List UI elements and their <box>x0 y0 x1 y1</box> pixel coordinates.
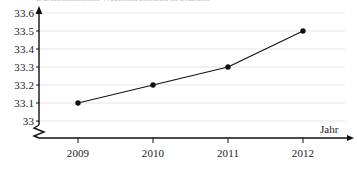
x-tick-label-2011: 2011 <box>198 148 258 159</box>
y-tick-label-33-1: 33.1 <box>0 98 34 109</box>
data-point-2009 <box>75 100 80 105</box>
gridlines <box>39 13 345 121</box>
x-tick-label-2010: 2010 <box>123 148 183 159</box>
line-chart-graphic <box>0 0 357 170</box>
chart-container: Durchschnittliche Wochenarbeitszeit in S… <box>0 0 357 170</box>
y-axis-break-icon <box>34 125 44 138</box>
x-axis <box>39 135 354 143</box>
data-point-2011 <box>225 64 230 69</box>
y-tick-label-33-2: 33.2 <box>0 80 34 91</box>
y-tick-label-33: 33 <box>0 116 34 127</box>
x-axis-title: Jahr <box>320 124 338 135</box>
y-tick-label-33-5: 33.5 <box>0 26 34 37</box>
data-point-2012 <box>300 28 305 33</box>
x-tick-label-2009: 2009 <box>48 148 108 159</box>
data-point-2010 <box>150 82 155 87</box>
x-tick-label-2012: 2012 <box>273 148 333 159</box>
y-axis <box>36 6 43 125</box>
y-tick-label-33-4: 33.4 <box>0 44 34 55</box>
y-tick-label-33-6: 33.6 <box>0 8 34 19</box>
y-tick-label-33-3: 33.3 <box>0 62 34 73</box>
